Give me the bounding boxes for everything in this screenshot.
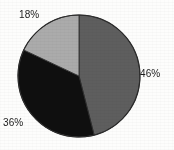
pie-slice-label-18: 18% — [19, 9, 39, 20]
pie-slice-label-36: 36% — [3, 117, 23, 128]
pie-slices-group — [18, 15, 140, 137]
pie-chart-figure: 18% 46% 36% — [0, 0, 174, 150]
pie-slice-label-46: 46% — [140, 68, 160, 79]
